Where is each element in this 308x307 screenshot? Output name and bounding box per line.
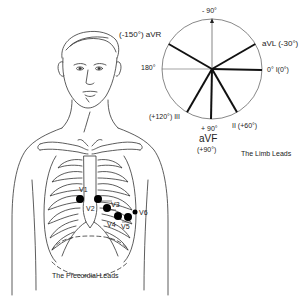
label-v3: V3 (111, 201, 120, 208)
lead-avl-line (212, 44, 255, 69)
lead-i-line (212, 69, 262, 70)
electrode-v4 (114, 212, 122, 220)
label-minus-90: - 90° (202, 7, 217, 14)
face-outline (63, 58, 117, 108)
lead-iii-line (187, 69, 212, 112)
label-avf-angle: (+90°) (197, 146, 216, 153)
label-v2: V2 (86, 205, 95, 212)
limb-leads-caption: The Limb Leads (241, 150, 291, 157)
label-avr: (-150°) aVR (119, 31, 161, 39)
shoulder-left (12, 128, 62, 295)
label-180: 180° (141, 64, 155, 71)
electrode-v3 (103, 204, 111, 212)
label-plus-90: + 90° (201, 125, 218, 132)
label-lead-iii: (+120°) III (149, 113, 180, 120)
lead-avr-line (169, 44, 212, 69)
lead-avf-line (211, 69, 212, 119)
label-lead-ii: II (+60°) (232, 122, 257, 129)
label-lead-i: 0° I(0°) (267, 66, 289, 73)
clavicle-right (92, 142, 140, 150)
label-avf: aVF (199, 134, 217, 144)
electrode-v1 (76, 195, 84, 203)
mouth (83, 91, 97, 92)
label-v4: V4 (107, 221, 116, 228)
precordial-leads-caption: The Precordial Leads (52, 272, 119, 279)
neck (62, 100, 72, 128)
label-avl: aVL (-30°) (262, 40, 298, 48)
label-v6: V6 (139, 209, 148, 216)
label-v5: V5 (121, 223, 130, 230)
electrode-v6 (133, 210, 138, 215)
lead-ii-line (212, 69, 237, 112)
electrode-v2 (94, 195, 102, 203)
hexaxial-circle (162, 18, 262, 119)
hair-detail (66, 38, 116, 52)
label-v1: V1 (79, 186, 88, 193)
clavicle-left (40, 142, 88, 150)
diaphragm-dashed (52, 236, 128, 250)
hair-outline (62, 31, 119, 58)
electrode-v5 (124, 213, 132, 221)
nose (86, 70, 94, 85)
